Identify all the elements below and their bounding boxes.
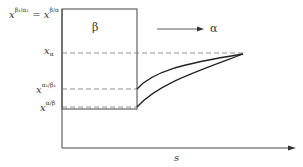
x-axis-label: s xyxy=(174,152,179,163)
label-subscript: α xyxy=(50,50,54,57)
label-superscript: α₁/β₁ xyxy=(42,81,56,88)
equals-sign: = xyxy=(32,9,40,20)
lower-concentration-curve xyxy=(137,54,243,107)
y-label-x-alpha-beta: xα/β xyxy=(40,99,55,113)
beta-phase-label: β xyxy=(92,21,98,34)
beta-phase-box xyxy=(62,9,137,109)
alpha-phase-label: α xyxy=(210,22,217,35)
y-label-x-alpha1-beta1: xα₁/β₁ xyxy=(36,81,56,95)
alpha-direction-arrow-icon xyxy=(197,27,204,32)
lhs-superscript: β₁/α₁ xyxy=(15,6,29,13)
x-axis-arrow-icon xyxy=(288,146,296,151)
interface-composition-equation: xβ₁/α₁ = xβ/α xyxy=(9,6,59,20)
y-label-x-alpha: xα xyxy=(44,45,54,57)
label-superscript: α/β xyxy=(46,99,56,106)
rhs-superscript: β/α xyxy=(49,6,59,13)
